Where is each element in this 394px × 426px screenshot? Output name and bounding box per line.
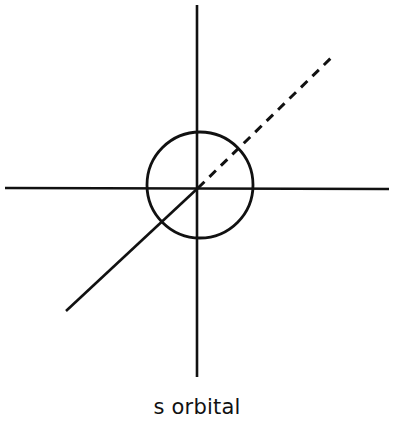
x-axis-front bbox=[66, 188, 198, 311]
diagram-caption: s orbital bbox=[0, 395, 394, 419]
s-orbital-diagram bbox=[0, 0, 394, 426]
x-axis-back-dashed bbox=[198, 57, 332, 188]
